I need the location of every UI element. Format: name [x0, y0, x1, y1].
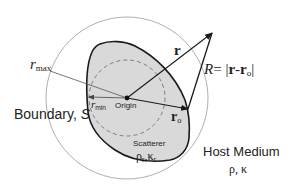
r-vector-label: r: [174, 43, 181, 58]
boundary-label: Boundary, S: [14, 107, 90, 121]
scatterer-label: Scatterer: [133, 140, 165, 148]
host-medium-label: Host Medium: [203, 145, 280, 158]
r-max-label: rmax: [30, 57, 51, 73]
R-formula-label: R= |r-ro|: [204, 62, 254, 78]
host-medium-properties: ρ, κ: [229, 163, 247, 175]
r-min-label: rmin: [91, 99, 106, 112]
scatterer-properties: ρr,κr: [136, 150, 156, 164]
origin-label: Origin: [115, 102, 136, 110]
origin-point: [125, 96, 130, 101]
r-o-label: ro: [171, 110, 181, 125]
